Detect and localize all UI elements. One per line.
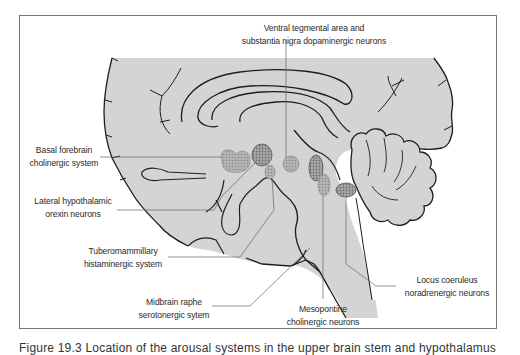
label-midbrain-raphe: Midbrain raphe serotonergic sytem: [136, 296, 212, 321]
locus-coeruleus-nucleus: [336, 183, 356, 197]
label-lateral-hypothalamic: Lateral hypothalamic orexin neurons: [30, 195, 116, 220]
label-locus-coeruleus: Locus coeruleus noradrenergic neurons: [404, 274, 490, 299]
figure-caption: Figure 19.3 Location of the arousal syst…: [19, 341, 496, 355]
label-tuberomammillary: Tuberomammillary histaminergic system: [80, 245, 166, 270]
mesopontine-nucleus-lower: [318, 174, 330, 196]
label-vta: Ventral tegmental area and substantia ni…: [224, 22, 404, 47]
label-mesopontine: Mesopontine cholinergic neurons: [280, 303, 366, 328]
label-basal-forebrain: Basal forebrain cholinergic system: [26, 144, 102, 169]
vta-nucleus: [283, 156, 299, 172]
tuberomammillary-nucleus: [265, 165, 275, 179]
